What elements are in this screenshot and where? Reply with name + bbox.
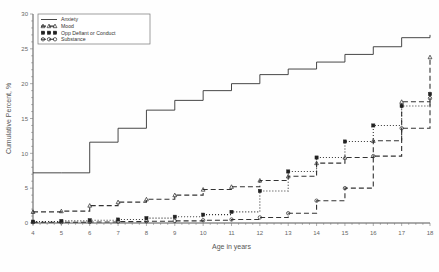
x-axis-title: Age in years — [212, 243, 251, 251]
series-marker — [287, 170, 290, 173]
x-tick-label: 5 — [60, 230, 64, 236]
series-marker — [53, 31, 56, 34]
series-marker — [47, 31, 50, 34]
axis-lines — [33, 14, 430, 223]
x-tick-label: 12 — [257, 230, 264, 236]
y-tick-label: 5 — [25, 185, 29, 191]
y-tick-label: 10 — [21, 151, 28, 157]
series-marker — [400, 100, 404, 104]
x-tick-label: 15 — [342, 230, 349, 236]
x-tick-label: 13 — [285, 230, 292, 236]
x-tick-label: 9 — [173, 230, 177, 236]
x-tick-label: 14 — [313, 230, 320, 236]
series-marker — [428, 93, 431, 96]
y-tick-label: 20 — [21, 81, 28, 87]
series-substance — [31, 97, 431, 224]
series-marker — [315, 156, 318, 159]
series-marker — [343, 156, 347, 160]
series-marker — [230, 185, 234, 189]
series-marker — [202, 213, 205, 216]
series-marker — [343, 140, 346, 143]
series-marker — [428, 55, 432, 59]
series-marker — [88, 204, 92, 208]
legend-label: Substance — [61, 36, 86, 42]
x-tick-label: 16 — [370, 230, 377, 236]
y-tick-label: 0 — [25, 220, 29, 226]
series-marker — [41, 31, 44, 34]
y-tick-label: 30 — [21, 11, 28, 17]
legend-label: Mood — [61, 23, 74, 29]
x-tick-label: 4 — [31, 230, 35, 236]
series-mood — [31, 55, 432, 213]
series-path — [33, 94, 430, 221]
series-path — [33, 35, 430, 173]
x-tick-label: 18 — [427, 230, 434, 236]
chart-canvas: 051015202530456789101112131415161718Age … — [0, 0, 439, 272]
x-tick-label: 8 — [145, 230, 149, 236]
series-marker — [173, 193, 177, 197]
series-marker — [400, 104, 403, 107]
series-anxiety — [33, 35, 430, 173]
legend-label: Opp Defiant or Conduct — [61, 30, 116, 36]
x-tick-label: 6 — [88, 230, 92, 236]
series-marker — [258, 189, 261, 192]
x-tick-label: 11 — [228, 230, 235, 236]
series-marker — [230, 210, 233, 213]
x-tick-label: 7 — [116, 230, 120, 236]
y-tick-label: 25 — [21, 46, 28, 52]
series-marker — [173, 215, 176, 218]
legend-label: Anxiety — [61, 16, 78, 22]
y-axis-title: Cumulative Percent, % — [5, 83, 12, 154]
x-tick-label: 17 — [398, 230, 405, 236]
x-tick-label: 10 — [200, 230, 207, 236]
y-tick-label: 15 — [21, 116, 28, 122]
series-marker — [116, 200, 120, 204]
series-marker — [372, 124, 375, 127]
chart-figure: 051015202530456789101112131415161718Age … — [0, 0, 439, 272]
series-path — [33, 98, 430, 222]
legend: AnxietyMoodOpp Defiant or ConductSubstan… — [38, 14, 150, 44]
